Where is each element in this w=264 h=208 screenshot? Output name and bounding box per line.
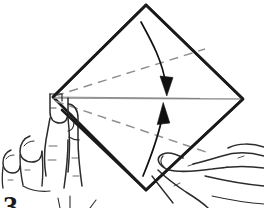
origami-step-figure: 3 (0, 0, 264, 208)
step-number: 3 (3, 191, 18, 208)
origami-illustration-canvas (0, 0, 264, 208)
left-hand-pinky-lower (2, 167, 3, 188)
left-hand-ring-outer (42, 152, 43, 186)
